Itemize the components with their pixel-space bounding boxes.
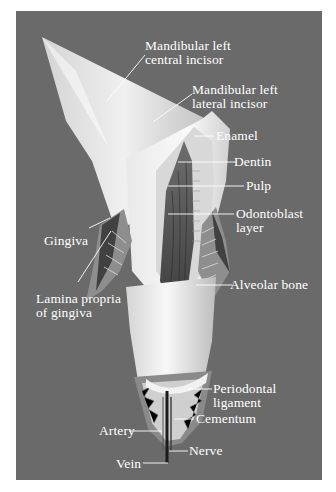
label-line: Pulp xyxy=(246,179,271,193)
label-line: Vein xyxy=(116,457,141,471)
label-line: layer xyxy=(236,221,303,235)
label-vein: Vein xyxy=(116,457,141,471)
label-central-incisor: Mandibular left central incisor xyxy=(145,39,231,67)
label-line: Lamina propria xyxy=(36,292,121,306)
label-artery: Artery xyxy=(99,424,135,438)
label-line: Mandibular left xyxy=(145,39,231,53)
label-line: lateral incisor xyxy=(192,97,278,111)
label-line: Nerve xyxy=(189,444,222,458)
label-line: central incisor xyxy=(145,53,231,67)
label-enamel: Enamel xyxy=(216,129,258,143)
label-line: ligament xyxy=(213,396,276,410)
label-alveolar-bone: Alveolar bone xyxy=(230,278,308,292)
label-dentin: Dentin xyxy=(234,155,271,169)
diagram-panel: Mandibular left central incisor Mandibul… xyxy=(16,11,322,480)
label-lateral-incisor: Mandibular left lateral incisor xyxy=(192,83,278,111)
label-line: Odontoblast xyxy=(236,207,303,221)
label-lamina-propria: Lamina propria of gingiva xyxy=(36,292,121,320)
label-line: Mandibular left xyxy=(192,83,278,97)
label-gingiva: Gingiva xyxy=(44,234,88,248)
label-line: Cementum xyxy=(196,412,256,426)
label-pulp: Pulp xyxy=(246,179,271,193)
label-nerve: Nerve xyxy=(189,444,222,458)
label-periodontal-ligament: Periodontal ligament xyxy=(213,382,276,410)
label-line: Gingiva xyxy=(44,234,88,248)
label-line: Artery xyxy=(99,424,135,438)
label-line: Dentin xyxy=(234,155,271,169)
label-line: Alveolar bone xyxy=(230,278,308,292)
label-line: of gingiva xyxy=(36,306,121,320)
label-line: Enamel xyxy=(216,129,258,143)
label-cementum: Cementum xyxy=(196,412,256,426)
label-line: Periodontal xyxy=(213,382,276,396)
label-odontoblast-layer: Odontoblast layer xyxy=(236,207,303,235)
